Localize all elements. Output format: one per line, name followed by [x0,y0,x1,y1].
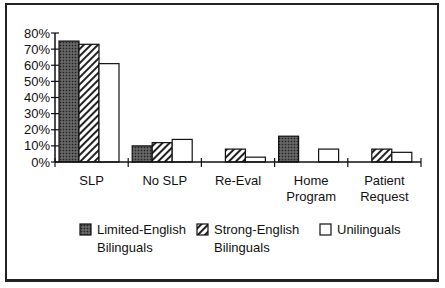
x-axis: SLPNo SLPRe-EvalHomeProgramPatientReques… [55,158,421,204]
legend-label: Unilinguals [337,222,401,237]
bar [225,149,245,162]
bar [279,136,299,162]
bar [79,44,99,162]
x-category-label: Request [360,189,409,204]
legend-label: Bilinguals [214,240,270,255]
x-category-label: Home [294,173,329,188]
x-category-label: Patient [364,173,405,188]
bar-chart: 0%10%20%30%40%50%60%70%80% SLPNo SLPRe-E… [0,0,445,288]
legend-swatch-icon [80,224,91,235]
x-category-label: Program [286,189,336,204]
y-tick-label: 60% [24,58,50,73]
y-tick-label: 10% [24,138,50,153]
x-category-label: SLP [79,173,104,188]
bar [392,152,412,162]
legend: Limited-EnglishBilingualsStrong-EnglishB… [80,222,401,255]
y-tick-label: 0% [31,155,50,170]
bar [59,41,79,162]
legend-swatch-icon [197,224,208,235]
legend-label: Limited-English [97,222,186,237]
y-tick-label: 80% [24,26,50,41]
legend-label: Strong-English [214,222,299,237]
bar [152,143,172,162]
legend-label: Bilinguals [97,240,153,255]
bar [99,64,119,162]
legend-swatch-icon [320,224,331,235]
bar-series [59,41,412,162]
bar [172,139,192,162]
y-tick-label: 40% [24,90,50,105]
y-tick-label: 20% [24,122,50,137]
y-axis: 0%10%20%30%40%50%60%70%80% [24,26,59,170]
y-tick-label: 70% [24,42,50,57]
bar [319,149,339,162]
y-tick-label: 50% [24,74,50,89]
y-tick-label: 30% [24,106,50,121]
bar [132,146,152,162]
bar [372,149,392,162]
x-category-label: Re-Eval [215,173,261,188]
x-category-label: No SLP [142,173,187,188]
